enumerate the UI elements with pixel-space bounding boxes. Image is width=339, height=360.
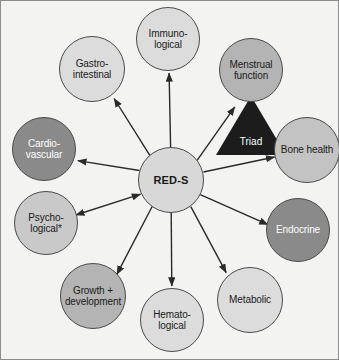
- node-growth-development[interactable]: Growth + development: [60, 263, 126, 329]
- node-bone-health[interactable]: Bone health: [274, 117, 339, 183]
- node-label-psychological: Psycho- logical*: [25, 212, 66, 234]
- node-gastrointestinal[interactable]: Gastro- intestinal: [59, 36, 125, 102]
- node-psychological[interactable]: Psycho- logical*: [14, 191, 78, 255]
- node-menstrual-function[interactable]: Menstrual function: [219, 38, 283, 102]
- node-label-growth-development: Growth + development: [62, 285, 124, 307]
- node-red-s[interactable]: RED-S: [138, 147, 204, 213]
- node-label-endocrine: Endocrine: [273, 224, 323, 235]
- node-metabolic[interactable]: Metabolic: [217, 267, 283, 333]
- node-label-menstrual-function: Menstrual function: [226, 59, 275, 81]
- node-label-immunological: Immuno- logical: [146, 28, 191, 50]
- node-hematological[interactable]: Hemato- logical: [140, 288, 204, 352]
- node-label-bone-health: Bone health: [278, 144, 336, 155]
- node-label-cardiovascular: Cardio- vascular: [23, 138, 65, 160]
- node-cardiovascular[interactable]: Cardio- vascular: [12, 117, 76, 181]
- node-label-hematological: Hemato- logical: [150, 309, 194, 331]
- node-label-red-s: RED-S: [150, 174, 191, 186]
- red-s-diagram: Triad Immuno- logical Menstrual function…: [0, 0, 339, 360]
- triad-label: Triad: [231, 136, 271, 147]
- node-label-metabolic: Metabolic: [226, 294, 274, 305]
- node-endocrine[interactable]: Endocrine: [266, 198, 330, 262]
- node-label-gastrointestinal: Gastro- intestinal: [70, 58, 114, 80]
- node-immunological[interactable]: Immuno- logical: [136, 7, 200, 71]
